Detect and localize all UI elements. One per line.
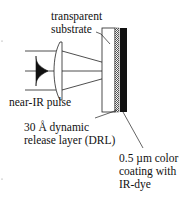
label-coating-line3: IR-dye <box>119 178 151 191</box>
label-near-ir-pulse: near-IR pulse <box>9 96 71 109</box>
label-coating-line2: coating with <box>119 165 176 178</box>
stray-mark <box>1 178 2 179</box>
color-coating <box>120 28 127 112</box>
label-substrate-line2: substrate <box>51 23 92 36</box>
gaussian-pulse-icon <box>36 56 48 86</box>
label-drl-line1: 30 Å dynamic <box>24 121 89 134</box>
dynamic-release-layer <box>115 28 119 112</box>
transparent-substrate <box>102 28 115 112</box>
label-substrate-line1: transparent <box>51 10 102 23</box>
label-drl-line2: release layer (DRL) <box>24 134 115 147</box>
diagram-canvas: transparent substrate near-IR pulse 30 Å… <box>0 0 187 199</box>
label-coating-line1: 0.5 µm color <box>119 152 178 165</box>
stray-mark <box>1 40 2 41</box>
